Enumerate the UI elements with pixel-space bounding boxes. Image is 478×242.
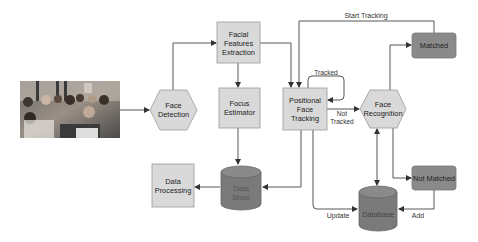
face-recognition-node[interactable]: Face Recognition [360, 90, 406, 128]
add-label: Add [412, 212, 425, 219]
not-tracked-label-2: Tracked [330, 118, 354, 125]
edge-features-to-tracking [260, 43, 291, 87]
focus-estimator-label-2: Estimator [224, 108, 256, 117]
positional-tracking-label-1: Positional [289, 96, 321, 105]
face-detection-label: Face [165, 101, 181, 110]
tracked-label: Tracked [314, 69, 338, 76]
edge-detection-to-features [173, 43, 216, 90]
data-store-node[interactable]: Data Store [221, 166, 261, 210]
edge-recognition-to-not-matched [393, 128, 411, 178]
facial-features-label-3: Extraction [222, 48, 255, 57]
start-tracking-label: Start Tracking [344, 12, 387, 20]
not-matched-node[interactable]: Not Matched [412, 166, 456, 190]
face-recognition-label-1: Face [375, 100, 391, 109]
matched-node[interactable]: Matched [412, 33, 456, 58]
database-label: Database [362, 210, 394, 219]
data-store-label-1: Data [233, 184, 250, 193]
not-tracked-label-1: Not [337, 110, 347, 117]
flowchart-canvas: Face Detection Facial Features Extractio… [0, 0, 478, 242]
data-processing-label-1: Data [165, 177, 182, 186]
edge-add [399, 190, 434, 209]
positional-tracking-label-3: Tracking [291, 114, 319, 123]
face-recognition-label-2: Recognition [363, 109, 402, 118]
data-processing-label-2: Processing [155, 186, 192, 195]
focus-estimator-node[interactable]: Focus Estimator [219, 88, 260, 128]
facial-features-label-2: Features [224, 39, 253, 48]
data-processing-node[interactable]: Data Processing [152, 164, 194, 207]
data-store-label-2: Store [232, 193, 250, 202]
face-detection-node[interactable]: Face Detection [150, 90, 197, 130]
classroom-photo [20, 81, 120, 138]
positional-tracking-node[interactable]: Positional Face Tracking [283, 88, 327, 130]
matched-label: Matched [420, 41, 448, 50]
focus-estimator-label-1: Focus [229, 99, 249, 108]
edge-update [313, 130, 357, 209]
facial-features-label-1: Facial [229, 30, 249, 39]
positional-tracking-label-2: Face [297, 105, 313, 114]
update-label: Update [327, 212, 350, 220]
database-node[interactable]: Database [359, 186, 397, 231]
edge-recognition-to-matched [390, 45, 411, 90]
facial-features-node[interactable]: Facial Features Extraction [217, 22, 260, 63]
not-matched-label: Not Matched [413, 174, 455, 183]
edge-tracking-to-datastore [263, 130, 301, 187]
face-detection-label-2: Detection [158, 110, 189, 119]
